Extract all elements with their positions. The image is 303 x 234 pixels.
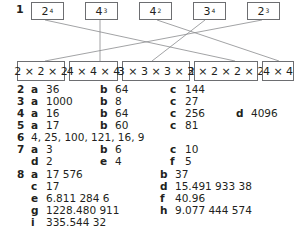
- power-base: 4: [150, 5, 157, 18]
- power-box: 34: [193, 2, 226, 20]
- power-base: 4: [96, 5, 103, 18]
- power-exponent: 4: [50, 7, 54, 14]
- part-label: d: [31, 155, 39, 168]
- answer-row-8-cont: i 335.544 32: [0, 216, 303, 229]
- product-box: 4 × 4: [262, 61, 294, 81]
- product-box: 4 × 4 × 4: [69, 61, 118, 81]
- power-exponent: 3: [104, 7, 108, 14]
- match-line-4-2: [157, 20, 279, 61]
- answer-value: 2: [46, 155, 53, 168]
- product-box: 2 × 2 × 2 × 2: [194, 61, 258, 81]
- match-line-2-3: [45, 20, 262, 61]
- answer-row-7-cont: d 2 e 4 f 5: [0, 155, 303, 168]
- part-label: e: [100, 155, 107, 168]
- power-box: 23: [247, 2, 280, 20]
- answer-value: 335.544 32: [46, 216, 106, 229]
- product-box: 3 × 3 × 3 × 3: [122, 61, 190, 81]
- match-line-2-4: [45, 20, 235, 61]
- power-box: 42: [139, 2, 172, 20]
- power-box: 43: [85, 2, 118, 20]
- power-base: 2: [258, 5, 265, 18]
- product-box: 2 × 2 × 2: [17, 61, 65, 81]
- power-exponent: 4: [212, 7, 216, 14]
- match-line-3-4: [152, 20, 205, 61]
- power-box: 24: [31, 2, 64, 20]
- part-label: f: [170, 155, 175, 168]
- answer-value: 4: [115, 155, 122, 168]
- power-base: 2: [42, 5, 49, 18]
- power-exponent: 3: [266, 7, 270, 14]
- answer-value: 5: [185, 155, 192, 168]
- part-label: i: [31, 216, 35, 229]
- power-base: 3: [204, 5, 211, 18]
- power-exponent: 2: [158, 7, 162, 14]
